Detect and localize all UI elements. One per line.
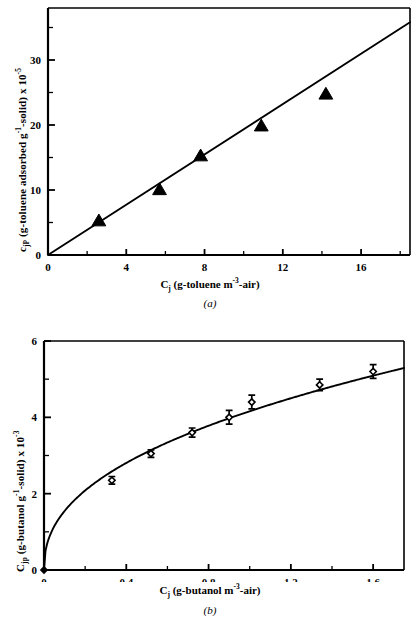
data-point-diamond — [41, 567, 47, 573]
y-tick-label: 0 — [32, 564, 38, 576]
data-point-diamond — [109, 477, 115, 483]
data-point-triangle — [194, 149, 208, 161]
y-axis-label-a-text: cjP (g-toluene adsorbed g-1-solid) x 10-… — [16, 68, 28, 252]
x-tick-label: 0 — [41, 576, 47, 582]
tick-group: 00.40.81.21.60246 — [32, 335, 381, 582]
panel-b: Cjp (g-butanol g-1-solid) x 10-3 00.40.8… — [0, 320, 420, 639]
data-point-diamond — [249, 399, 255, 405]
x-tick-label: 12 — [277, 261, 289, 273]
plot-area-b: 00.40.81.21.60246 — [0, 320, 420, 582]
y-tick-label: 4 — [32, 411, 38, 423]
x-tick-label: 1.2 — [284, 576, 298, 582]
y-tick-label: 0 — [36, 249, 42, 261]
x-tick-label: 4 — [124, 261, 130, 273]
y-axis-label-b: Cjp (g-butanol g-1-solid) x 10-3 — [14, 431, 26, 572]
y-tick-label: 20 — [30, 119, 42, 131]
plot-area-a: 04812160102030 — [0, 0, 420, 290]
data-point-diamond — [316, 382, 322, 388]
axis-frame — [48, 8, 410, 255]
x-tick-label: 8 — [202, 261, 208, 273]
y-axis-label-a: cjP (g-toluene adsorbed g-1-solid) x 10-… — [16, 68, 28, 252]
panel-a: cjP (g-toluene adsorbed g-1-solid) x 10-… — [0, 0, 420, 320]
x-tick-label: 0 — [45, 261, 51, 273]
panel-caption-a: (a) — [0, 297, 420, 309]
axis-frame — [44, 341, 404, 570]
x-axis-label-b: Cj (g-butanol m-3-air) — [0, 584, 420, 596]
y-tick-label: 10 — [30, 184, 42, 196]
x-tick-label: 16 — [356, 261, 368, 273]
y-tick-label: 2 — [32, 488, 38, 500]
y-axis-label-b-text: Cjp (g-butanol g-1-solid) x 10-3 — [14, 431, 26, 572]
x-tick-label: 1.6 — [366, 576, 380, 582]
data-point-diamond — [370, 368, 376, 374]
y-tick-label: 6 — [32, 335, 38, 347]
fit-line — [44, 368, 404, 570]
data-series — [92, 87, 333, 226]
y-tick-label: 30 — [30, 54, 42, 66]
x-tick-label: 0.8 — [202, 576, 216, 582]
figure-container: cjP (g-toluene adsorbed g-1-solid) x 10-… — [0, 0, 420, 639]
panel-caption-b: (b) — [0, 604, 420, 616]
x-axis-label-a: Cj (g-toluene m-3-air) — [0, 278, 420, 290]
x-tick-label: 0.4 — [119, 576, 133, 582]
data-point-triangle — [153, 183, 167, 195]
data-point-triangle — [319, 87, 333, 99]
data-series — [41, 365, 377, 574]
